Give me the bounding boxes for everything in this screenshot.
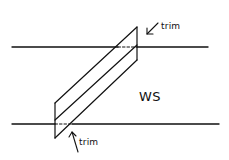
trim-label-top: trim	[161, 22, 180, 31]
strip-upper-diagonal	[55, 27, 137, 103]
strip-middle-diagonal	[55, 45, 137, 120]
slanted-strip	[55, 27, 137, 138]
trim-label-bottom: trim	[79, 138, 98, 147]
diagram-canvas	[0, 0, 229, 160]
region-label-ws: WS	[139, 90, 161, 103]
arrow-icon-bottom-trim	[69, 132, 78, 152]
arrow-icon-top-trim	[147, 23, 158, 34]
strip-lower-diagonal	[55, 60, 137, 138]
